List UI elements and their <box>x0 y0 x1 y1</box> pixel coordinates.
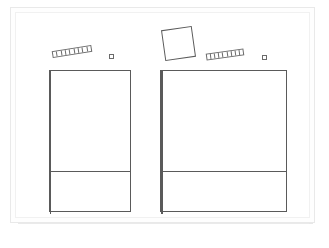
tiny-square-left[interactable] <box>109 54 114 59</box>
segmented-bar-left[interactable] <box>52 45 93 58</box>
app-root <box>0 0 329 248</box>
grid-unit-right[interactable] <box>160 70 287 212</box>
grid-row-lower <box>50 171 130 214</box>
segmented-bar-right[interactable] <box>206 48 245 60</box>
bar-segment <box>239 50 243 55</box>
bar-segment <box>87 46 91 51</box>
grid-cell[interactable] <box>162 71 163 171</box>
grid-cell[interactable] <box>50 71 51 171</box>
caption-strip <box>0 228 329 248</box>
grid-cell[interactable] <box>50 172 51 214</box>
grid-row-upper <box>50 71 130 171</box>
tiny-square-right[interactable] <box>262 55 267 60</box>
grid-cell[interactable] <box>162 172 163 214</box>
tilted-square[interactable] <box>161 26 196 61</box>
grid-row-lower <box>161 171 286 214</box>
drawing-canvas[interactable] <box>0 0 329 248</box>
grid-row-upper <box>161 71 286 171</box>
grid-unit-left[interactable] <box>49 70 131 212</box>
